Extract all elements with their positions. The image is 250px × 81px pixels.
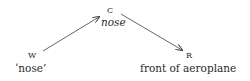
node-w-label: W — [28, 52, 37, 60]
node-r-label: R — [186, 52, 192, 60]
node-c-gloss: nose — [101, 17, 126, 28]
arrow-c-to-r — [121, 14, 182, 50]
arrow-w-to-c — [43, 17, 99, 51]
node-c-label: C — [107, 7, 113, 15]
node-w-gloss: ‘nose’ — [15, 63, 46, 74]
node-r-gloss: front of aeroplane — [140, 63, 236, 74]
